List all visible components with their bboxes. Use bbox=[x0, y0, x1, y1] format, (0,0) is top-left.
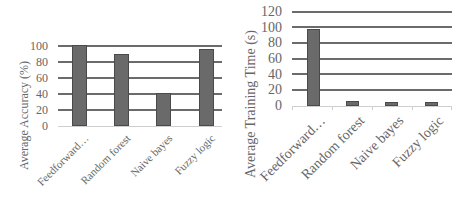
x-label-fuzzy-logic: Fuzzy logic bbox=[172, 132, 217, 177]
training-time-chart: Average Training Time (s) 120 100 80 60 … bbox=[230, 0, 468, 198]
bar-naive-bayes bbox=[156, 93, 171, 126]
bar-fuzzy-logic bbox=[199, 49, 214, 126]
bar-naive-bayes bbox=[385, 102, 398, 106]
x-tick bbox=[332, 106, 333, 110]
y-tick: 60 bbox=[252, 51, 282, 67]
gridline bbox=[292, 26, 452, 28]
y-tick: 100 bbox=[24, 39, 48, 54]
bar-feedforward bbox=[72, 45, 87, 126]
x-tick bbox=[412, 106, 413, 110]
y-tick: 40 bbox=[24, 87, 48, 102]
gridline bbox=[292, 11, 452, 13]
bar-fuzzy-logic bbox=[425, 102, 438, 106]
y-tick: 0 bbox=[24, 119, 48, 134]
y-tick: 0 bbox=[252, 98, 282, 114]
y-tick: 20 bbox=[24, 103, 48, 118]
y-tick: 20 bbox=[252, 82, 282, 98]
y-tick: 120 bbox=[252, 4, 282, 20]
y-tick: 100 bbox=[252, 20, 282, 36]
bar-random-forest bbox=[346, 101, 359, 106]
x-tick bbox=[292, 106, 293, 110]
x-label-feedforward: Feedforward… bbox=[258, 113, 330, 185]
x-label-naive-bayes: Naive bayes bbox=[128, 132, 175, 179]
bar-random-forest bbox=[114, 54, 129, 126]
x-tick bbox=[451, 106, 452, 110]
x-tick bbox=[372, 106, 373, 110]
y-tick: 80 bbox=[252, 35, 282, 51]
y-tick: 40 bbox=[252, 67, 282, 83]
accuracy-chart: Average Accuracy (%) 100 80 60 40 20 0 F… bbox=[0, 0, 230, 198]
y-tick: 60 bbox=[24, 71, 48, 86]
bar-feedforward bbox=[307, 29, 320, 106]
y-tick: 80 bbox=[24, 55, 48, 70]
x-axis bbox=[58, 126, 222, 127]
